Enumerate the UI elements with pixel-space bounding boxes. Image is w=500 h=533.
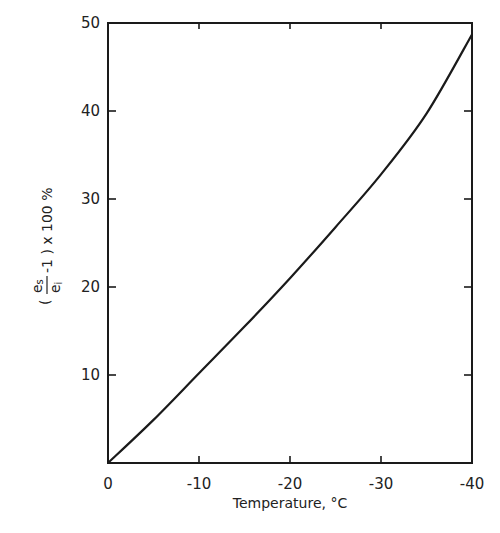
y-axis-numerator: es [29, 279, 45, 293]
x-tick-labels: 0-10-20-30-40 [103, 475, 484, 493]
x-tick-label: -10 [187, 475, 212, 493]
x-tick-label: 0 [103, 475, 113, 493]
y-tick-label: 50 [81, 14, 100, 32]
y-tick-label: 20 [81, 278, 100, 296]
plot-frame [108, 23, 472, 463]
chart: 1020304050 0-10-20-30-40 Temperature, °C… [0, 0, 500, 533]
y-axis-denominator: ei [47, 282, 64, 293]
y-tick-label: 40 [81, 102, 100, 120]
axis-ticks [108, 23, 472, 463]
y-tick-labels: 1020304050 [81, 14, 100, 384]
y-tick-label: 30 [81, 190, 100, 208]
y-axis-rest: -1 ) x 100 % [39, 187, 55, 273]
y-axis-paren: ( [37, 300, 53, 305]
y-tick-label: 10 [81, 366, 100, 384]
x-tick-label: -30 [369, 475, 394, 493]
y-axis-title: ( es ei -1 ) x 100 % [29, 187, 64, 305]
x-axis-title: Temperature, °C [232, 495, 348, 511]
x-tick-label: -40 [460, 475, 485, 493]
x-tick-label: -20 [278, 475, 303, 493]
data-line [108, 34, 472, 463]
